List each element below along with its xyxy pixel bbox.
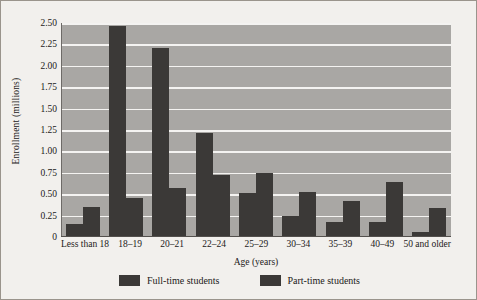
legend-entry: Full-time students: [119, 275, 220, 286]
y-axis-tick-label: 2.25: [23, 39, 57, 49]
y-axis-tick-labels: 2.502.252.001.751.501.251.000.750.500.25…: [23, 23, 57, 237]
y-axis-tick-label: 1.75: [23, 82, 57, 92]
y-axis-tick-label: 0.75: [23, 168, 57, 178]
x-axis-tick-label: Less than 18: [61, 239, 109, 253]
bar: [213, 175, 230, 237]
x-axis-tick-labels: Less than 1818–1920–2122–2425–2930–3435–…: [61, 239, 451, 253]
legend-swatch-icon: [119, 275, 140, 286]
x-axis-tick-label: 40–49: [361, 239, 403, 253]
x-axis-tick-label: 18–19: [109, 239, 151, 253]
bar: [169, 188, 186, 237]
x-axis-tick-label: 35–39: [319, 239, 361, 253]
legend-label: Part-time students: [288, 275, 361, 286]
y-axis-tick-label: 1.50: [23, 104, 57, 114]
bar: [239, 193, 256, 238]
bar: [256, 173, 273, 237]
y-axis-tick-label: 1.00: [23, 146, 57, 156]
x-axis-line: [61, 236, 451, 238]
bar-group: [191, 23, 234, 237]
x-axis-tick-label: 50 and older: [403, 239, 451, 253]
y-axis-tick-label: 2.50: [23, 18, 57, 28]
bar: [83, 207, 100, 237]
bar-group: [364, 23, 407, 237]
bar-group: [104, 23, 147, 237]
y-axis-tick-label: 0.50: [23, 189, 57, 199]
chart-legend: Full-time studentsPart-time students: [1, 275, 477, 286]
bar-groups: [61, 23, 451, 237]
x-axis-tick-label: 30–34: [277, 239, 319, 253]
bar-group: [408, 23, 451, 237]
bar-group: [148, 23, 191, 237]
bar-group: [321, 23, 364, 237]
y-axis-tick-label: 1.25: [23, 125, 57, 135]
bar-group: [61, 23, 104, 237]
bar: [196, 133, 213, 237]
bar: [299, 192, 316, 237]
x-axis-tick-label: 20–21: [151, 239, 193, 253]
bar-group: [278, 23, 321, 237]
legend-label: Full-time students: [147, 275, 220, 286]
x-axis-tick-label: 25–29: [235, 239, 277, 253]
bar: [343, 201, 360, 237]
y-axis-tick-label: 0: [23, 232, 57, 242]
y-axis-tick-label: 0.25: [23, 211, 57, 221]
bar: [386, 182, 403, 237]
bar: [429, 208, 446, 237]
bar: [109, 26, 126, 237]
legend-swatch-icon: [260, 275, 281, 286]
chart-figure: Enrollment (millions) 2.502.252.001.751.…: [0, 0, 477, 300]
x-axis-tick-label: 22–24: [193, 239, 235, 253]
bar: [282, 216, 299, 237]
x-axis-title: Age (years): [61, 257, 451, 267]
bar: [152, 48, 169, 237]
plot-area: [61, 23, 451, 237]
legend-entry: Part-time students: [260, 275, 361, 286]
bar: [126, 198, 143, 237]
y-axis-tick-label: 2.00: [23, 61, 57, 71]
bar-group: [234, 23, 277, 237]
